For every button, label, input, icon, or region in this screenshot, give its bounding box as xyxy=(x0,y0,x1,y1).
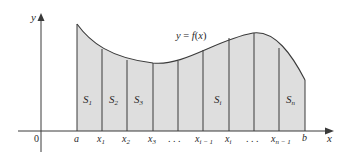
tick-ellipsis-1: . . . xyxy=(168,133,181,144)
tick-x1: x1 xyxy=(96,133,105,146)
tick-b: b xyxy=(302,132,307,143)
tick-xn-1: xn − 1 xyxy=(270,133,291,146)
x-axis-label: x xyxy=(326,132,332,144)
tick-xi: xi xyxy=(224,133,231,146)
y-axis-label: y xyxy=(30,11,36,23)
curve-label: y = f(x) xyxy=(175,30,207,42)
diagram-canvas: y x 0 y = f(x) a x1 x2 x3 . . . xi − 1 x… xyxy=(0,0,356,160)
y-axis-arrow-icon xyxy=(38,13,45,21)
tick-x3: x3 xyxy=(147,133,156,146)
tick-xi-1: xi − 1 xyxy=(194,133,213,146)
tick-ellipsis-2: . . . xyxy=(246,133,259,144)
tick-labels: a x1 x2 x3 . . . xi − 1 xi . . . xn − 1 … xyxy=(74,132,307,146)
tick-a: a xyxy=(74,133,79,144)
origin-label: 0 xyxy=(34,133,39,144)
tick-x2: x2 xyxy=(121,133,130,146)
riemann-strips-diagram: y x 0 y = f(x) a x1 x2 x3 . . . xi − 1 x… xyxy=(0,0,356,160)
